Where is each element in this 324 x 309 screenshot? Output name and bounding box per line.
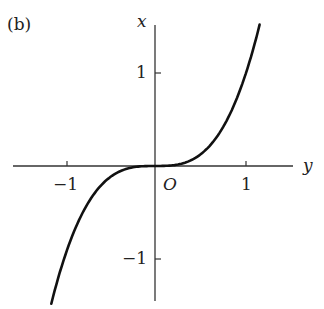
tick-label-v-minus1: −1 <box>122 250 147 267</box>
panel-label: (b) <box>7 16 31 33</box>
horizontal-axis-label: y <box>303 157 313 174</box>
tick-label-h-1: 1 <box>241 176 252 193</box>
origin-label: O <box>163 176 177 193</box>
plot-canvas <box>0 0 324 309</box>
tick-label-h-minus1: −1 <box>53 176 78 193</box>
tick-label-v-1: 1 <box>136 64 147 81</box>
vertical-axis-label: x <box>137 13 147 30</box>
